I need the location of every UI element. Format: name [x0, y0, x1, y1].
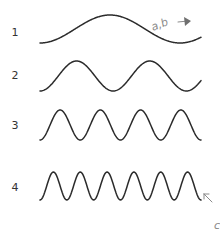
wave-4: [40, 172, 201, 200]
arrow-icon: [204, 194, 212, 202]
annotation-c: c: [214, 219, 220, 231]
wave-3: [40, 110, 201, 140]
wave-2: [40, 61, 201, 91]
wave-1: [40, 15, 201, 43]
arrow-icon: [178, 17, 191, 26]
waves-canvas: a,b c: [0, 0, 220, 231]
annotation-ab: a,b: [149, 15, 170, 34]
